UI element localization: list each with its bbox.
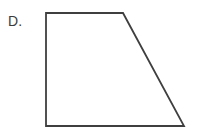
trapezoid-outline <box>46 13 184 126</box>
figure-container: D. <box>0 0 198 135</box>
trapezoid-figure <box>0 0 198 135</box>
